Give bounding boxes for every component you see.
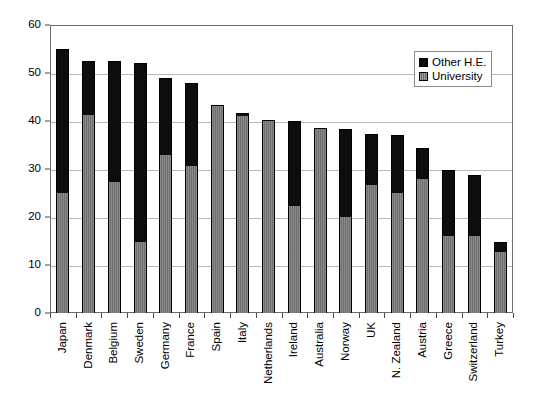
bar-segment-university: [314, 128, 327, 313]
bar-segment-university: [416, 179, 429, 313]
x-tick-mark: [462, 313, 463, 318]
bar-segment-university: [365, 185, 378, 313]
bar-segment-other-he: [416, 148, 429, 178]
bar-spain: [211, 105, 224, 313]
y-tick-label: 30: [28, 163, 41, 175]
bar-greece: [442, 170, 455, 313]
x-tick-mark: [127, 313, 128, 318]
bar-segment-university: [339, 217, 352, 313]
bar-segment-university: [211, 105, 224, 313]
x-tick-label: Denmark: [83, 322, 95, 369]
bar-segment-university: [134, 242, 147, 313]
bar-segment-other-he: [442, 170, 455, 236]
x-tick-mark: [333, 313, 334, 318]
x-tick-label: Japan: [57, 322, 69, 353]
x-tick-mark: [410, 313, 411, 318]
bar-segment-other-he: [365, 134, 378, 185]
bar-segment-other-he: [56, 49, 69, 193]
bar-segment-university: [391, 193, 404, 313]
x-tick-mark: [359, 313, 360, 318]
x-tick-mark: [204, 313, 205, 318]
x-tick-mark: [76, 313, 77, 318]
x-tick-label: N. Zealand: [391, 322, 403, 378]
x-tick-label: Netherlands: [263, 322, 275, 384]
x-tick-label: UK: [366, 322, 378, 338]
bar-segment-other-he: [185, 83, 198, 166]
bar-segment-university: [468, 236, 481, 313]
y-axis: 0102030405060: [0, 25, 50, 313]
x-tick-label: Switzerland: [468, 322, 480, 381]
x-tick-mark: [153, 313, 154, 318]
bar-australia: [314, 128, 327, 313]
y-tick-label: 50: [28, 67, 41, 79]
x-tick-label: Italy: [237, 322, 249, 343]
bar-segment-university: [236, 116, 249, 313]
bar-switzerland: [468, 175, 481, 313]
y-tick-label: 60: [28, 19, 41, 31]
bar-segment-other-he: [339, 129, 352, 217]
bar-n-zealand: [391, 135, 404, 313]
legend-item-other-he: Other H.E.: [419, 55, 486, 69]
bar-germany: [159, 78, 172, 313]
legend-item-label: University: [432, 70, 482, 82]
y-tick-label: 40: [28, 115, 41, 127]
bar-norway: [339, 129, 352, 313]
y-tick-label: 10: [28, 259, 41, 271]
x-tick-mark: [230, 313, 231, 318]
x-tick-mark: [101, 313, 102, 318]
bar-segment-university: [494, 252, 507, 313]
x-tick-label: Austria: [417, 322, 429, 358]
bar-denmark: [82, 61, 95, 313]
x-tick-mark: [487, 313, 488, 318]
bar-segment-university: [442, 236, 455, 313]
bar-segment-other-he: [108, 61, 121, 182]
bar-france: [185, 83, 198, 313]
bar-sweden: [134, 63, 147, 313]
bar-segment-university: [185, 166, 198, 313]
x-tick-label: Germany: [160, 322, 172, 369]
bar-turkey: [494, 242, 507, 313]
bar-segment-university: [288, 206, 301, 313]
bar-netherlands: [262, 120, 275, 313]
black-square-icon: [419, 58, 428, 67]
x-tick-label: Turkey: [494, 322, 506, 357]
bar-belgium: [108, 61, 121, 313]
bar-segment-other-he: [134, 63, 147, 242]
x-tick-label: Sweden: [134, 322, 146, 364]
x-tick-mark: [513, 313, 514, 318]
bar-segment-university: [108, 182, 121, 313]
gray-square-icon: [419, 72, 428, 81]
legend-item-university: University: [419, 69, 486, 83]
bar-austria: [416, 148, 429, 313]
bar-chart: 0102030405060 JapanDenmarkBelgiumSwedenG…: [0, 0, 542, 407]
x-tick-label: Norway: [340, 322, 352, 361]
chart-legend: Other H.E. University: [414, 51, 492, 87]
bar-segment-other-he: [159, 78, 172, 155]
x-tick-mark: [436, 313, 437, 318]
bar-segment-university: [262, 120, 275, 313]
x-tick-label: Belgium: [108, 322, 120, 364]
x-tick-label: Australia: [314, 322, 326, 367]
bar-segment-other-he: [391, 135, 404, 193]
bar-japan: [56, 49, 69, 313]
bar-segment-university: [159, 155, 172, 313]
x-tick-mark: [179, 313, 180, 318]
legend-item-label: Other H.E.: [432, 56, 486, 68]
x-tick-label: Ireland: [288, 322, 300, 357]
x-tick-mark: [50, 313, 51, 318]
bar-segment-university: [82, 115, 95, 313]
y-tick-label: 0: [35, 307, 41, 319]
x-axis: JapanDenmarkBelgiumSwedenGermanyFranceSp…: [50, 313, 513, 407]
bar-segment-other-he: [468, 175, 481, 236]
bar-segment-university: [56, 193, 69, 313]
x-tick-mark: [256, 313, 257, 318]
bar-uk: [365, 134, 378, 313]
x-tick-label: Greece: [443, 322, 455, 360]
y-tick-label: 20: [28, 211, 41, 223]
bar-ireland: [288, 121, 301, 313]
x-tick-label: Spain: [211, 322, 223, 351]
bar-italy: [236, 113, 249, 313]
bar-segment-other-he: [494, 242, 507, 252]
x-tick-mark: [282, 313, 283, 318]
bar-segment-other-he: [288, 121, 301, 206]
